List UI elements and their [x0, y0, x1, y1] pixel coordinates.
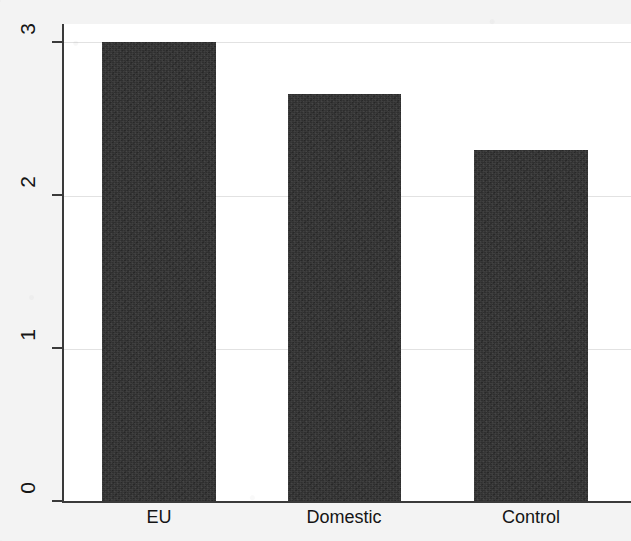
bar-control: [474, 150, 588, 502]
x-axis-line: [62, 501, 631, 503]
bar-domestic: [288, 94, 401, 502]
x-tick-label-eu: EU: [99, 506, 219, 529]
plot-area: [62, 24, 631, 502]
bar-chart-figure: 3 2 1 0 EU Domestic Control: [0, 0, 631, 541]
y-tick-mark-1: [52, 347, 63, 349]
y-tick-label-2-wrap: 2: [8, 183, 46, 207]
y-axis-line: [62, 24, 64, 503]
y-tick-label-3: 3: [15, 23, 39, 61]
y-tick-label-0-wrap: 0: [8, 489, 46, 513]
y-tick-label-3-wrap: 3: [8, 30, 46, 54]
y-tick-label-0: 0: [15, 482, 39, 520]
y-tick-mark-2: [52, 194, 63, 196]
x-tick-label-domestic: Domestic: [284, 506, 404, 529]
bar-eu: [102, 42, 216, 502]
y-tick-label-2: 2: [15, 176, 39, 214]
y-tick-mark-0: [52, 500, 63, 502]
y-tick-label-1: 1: [15, 329, 39, 367]
x-tick-label-control: Control: [471, 506, 591, 529]
y-tick-label-1-wrap: 1: [8, 336, 46, 360]
y-tick-mark-3: [52, 41, 63, 43]
